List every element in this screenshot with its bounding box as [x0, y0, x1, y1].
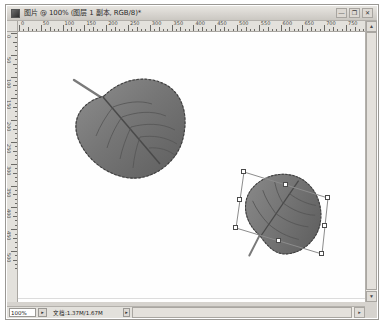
ruler-label: 300	[7, 166, 12, 176]
leaf-large[interactable]	[56, 60, 196, 190]
ruler-label: 500	[7, 253, 12, 263]
ruler-tick	[11, 251, 18, 252]
ruler-label: 300	[152, 21, 162, 26]
ruler-tick	[11, 186, 18, 187]
ruler-label: 500	[239, 21, 249, 26]
ruler-label: 400	[195, 21, 205, 26]
ruler-label: 250	[130, 21, 140, 26]
ruler-tick	[237, 25, 238, 32]
ruler-tick	[84, 25, 85, 32]
horizontal-ruler[interactable]: 0501001502002503003504004505005506006507…	[18, 21, 366, 32]
ruler-label: 350	[7, 188, 12, 198]
ruler-tick	[11, 207, 18, 208]
ruler-tick	[11, 77, 18, 78]
ruler-tick	[106, 25, 107, 32]
ruler-label: 750	[348, 21, 358, 26]
ruler-tick	[193, 25, 194, 32]
ruler-label: 400	[7, 209, 12, 219]
window-title: 图片 @ 100% (图层 1 副本, RGB/8)*	[24, 9, 141, 18]
minimize-button[interactable]: —	[336, 8, 347, 18]
ruler-label: 150	[7, 100, 12, 110]
scroll-right-button[interactable]: ▸	[354, 307, 365, 318]
ruler-tick	[11, 55, 18, 56]
ruler-label: 250	[7, 144, 12, 154]
ruler-label: 50	[43, 21, 49, 26]
ruler-label: 200	[7, 122, 12, 132]
ruler-label: 200	[108, 21, 118, 26]
ruler-label: 150	[86, 21, 96, 26]
status-menu-arrow-icon[interactable]: ▸	[123, 308, 130, 317]
document-icon	[11, 9, 20, 18]
scroll-up-button[interactable]: ▲	[366, 21, 377, 32]
ruler-tick	[11, 98, 18, 99]
ruler-label: 100	[65, 21, 75, 26]
ruler-tick	[11, 142, 18, 143]
ruler-label: 50	[7, 57, 12, 63]
ruler-label: 450	[7, 231, 12, 241]
ruler-tick	[150, 25, 151, 32]
ruler-tick	[11, 33, 18, 34]
ruler-label: 650	[304, 21, 314, 26]
leaf-large-graphic	[56, 60, 196, 190]
ruler-tick	[11, 164, 18, 165]
ruler-label: 600	[283, 21, 293, 26]
ruler-tick	[63, 25, 64, 32]
ruler-corner[interactable]	[7, 21, 18, 32]
canvas-area[interactable]	[18, 32, 366, 302]
ruler-tick	[128, 25, 129, 32]
ruler-tick	[259, 25, 260, 32]
ruler-tick	[302, 25, 303, 32]
status-bar: 100% ▸ 文档:1.37M/1.67M ▸	[7, 306, 132, 318]
ruler-label: 350	[174, 21, 184, 26]
vertical-scrollbar[interactable]: ▲ ▼	[365, 21, 377, 302]
maximize-button[interactable]: ❐	[349, 8, 360, 18]
ruler-tick	[324, 25, 325, 32]
horizontal-scroll-thumb[interactable]	[132, 307, 352, 318]
ruler-tick	[41, 25, 42, 32]
ruler-tick	[215, 25, 216, 32]
close-button[interactable]: ✕	[362, 8, 373, 18]
zoom-input[interactable]: 100%	[9, 308, 36, 317]
vertical-ruler[interactable]: 050100150200250300350400450500	[7, 32, 18, 302]
ruler-label: 100	[7, 79, 12, 89]
ruler-label: 700	[326, 21, 336, 26]
photoshop-document-window: 图片 @ 100% (图层 1 副本, RGB/8)* — ❐ ✕ 050100…	[5, 4, 379, 320]
scroll-down-button[interactable]: ▼	[366, 291, 377, 302]
leaf-copy[interactable]	[214, 148, 345, 279]
window-controls: — ❐ ✕	[336, 8, 373, 18]
title-bar[interactable]: 图片 @ 100% (图层 1 副本, RGB/8)* — ❐ ✕	[7, 6, 377, 21]
ruler-label: 550	[261, 21, 271, 26]
horizontal-scrollbar[interactable]: ▸	[132, 306, 365, 318]
ruler-tick	[281, 25, 282, 32]
ruler-tick	[11, 229, 18, 230]
ruler-label: 0	[7, 35, 12, 38]
ruler-label: 450	[217, 21, 227, 26]
ruler-tick	[11, 120, 18, 121]
zoom-menu-arrow-icon[interactable]: ▸	[38, 308, 47, 317]
ruler-tick	[346, 25, 347, 32]
document-size-label: 文档:1.37M/1.67M	[53, 309, 103, 317]
ruler-label: 0	[21, 21, 24, 26]
leaf-copy-graphic	[214, 148, 345, 279]
canvas-page[interactable]	[18, 32, 366, 299]
vertical-scroll-thumb[interactable]	[366, 32, 377, 290]
ruler-tick	[172, 25, 173, 32]
ruler-tick	[19, 25, 20, 32]
